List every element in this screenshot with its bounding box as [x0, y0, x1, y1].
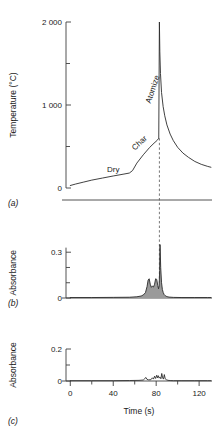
panel-c-y-axis-title: Absorbance [8, 342, 18, 388]
panel-b-absorbance-curve [70, 245, 211, 298]
panel-a-temperature-curve [70, 22, 211, 186]
panel-c-y-tick-label: 0 [58, 377, 63, 386]
x-axis-title: Time (s) [124, 406, 155, 416]
panel-a-annotation-char: Char [130, 134, 149, 153]
panel-c-absorbance-curve [70, 373, 211, 380]
panel-b-y-tick-label: 0 [58, 294, 63, 303]
panel-b-y-tick-label: 0.3 [51, 248, 63, 257]
x-tick-label: 120 [192, 389, 206, 398]
panel-a-label: (a) [8, 198, 19, 208]
x-tick-label: 40 [109, 389, 118, 398]
figure-canvas: 01 0002 000DryCharAtomizeTemperature (°C… [0, 0, 217, 442]
panel-c-label: (c) [8, 416, 18, 426]
panel-a-annotation-dry: Dry [107, 165, 119, 174]
panel-a-y-tick-label: 1 000 [42, 101, 63, 110]
panel-a-y-tick-label: 0 [58, 184, 63, 193]
x-tick-label: 80 [152, 389, 161, 398]
figure-gfaas-temperature-absorbance: 01 0002 000DryCharAtomizeTemperature (°C… [0, 0, 217, 442]
panel-c-y-tick-label: 0.2 [51, 345, 63, 354]
panel-a-y-tick-label: 2 000 [42, 18, 63, 27]
x-tick-label: 0 [68, 389, 73, 398]
panel-b-absorbance-fill [70, 245, 211, 298]
panel-b-y-axis-title: Absorbance [8, 250, 18, 296]
panel-b-label: (b) [8, 298, 19, 308]
panel-a-y-axis-title: Temperature (°C) [8, 72, 18, 137]
